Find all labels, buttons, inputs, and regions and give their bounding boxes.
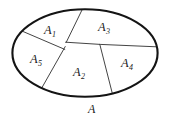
region-label-a4-subscript: 4 bbox=[129, 63, 133, 72]
region-label-a1-subscript: 1 bbox=[52, 30, 56, 39]
region-label-a3-base: A bbox=[98, 20, 106, 34]
partition-figure: A1 A3 A5 A2 A4 A bbox=[0, 0, 169, 123]
region-label-a2-subscript: 2 bbox=[81, 72, 85, 81]
canvas-background bbox=[0, 0, 169, 123]
region-label-a4: A4 bbox=[121, 57, 133, 70]
region-label-a2: A2 bbox=[73, 66, 85, 79]
universal-set-label-text: A bbox=[88, 102, 95, 116]
region-label-a2-base: A bbox=[73, 65, 81, 79]
region-label-a5: A5 bbox=[30, 53, 42, 66]
region-label-a4-base: A bbox=[121, 56, 129, 70]
region-label-a1-base: A bbox=[44, 23, 52, 37]
region-label-a5-base: A bbox=[30, 52, 38, 66]
region-label-a3: A3 bbox=[98, 21, 110, 34]
region-label-a1: A1 bbox=[44, 24, 56, 37]
region-label-a3-subscript: 3 bbox=[106, 27, 110, 36]
region-label-a5-subscript: 5 bbox=[38, 59, 42, 68]
partition-diagram-svg bbox=[0, 0, 169, 123]
universal-set-label: A bbox=[88, 103, 95, 115]
